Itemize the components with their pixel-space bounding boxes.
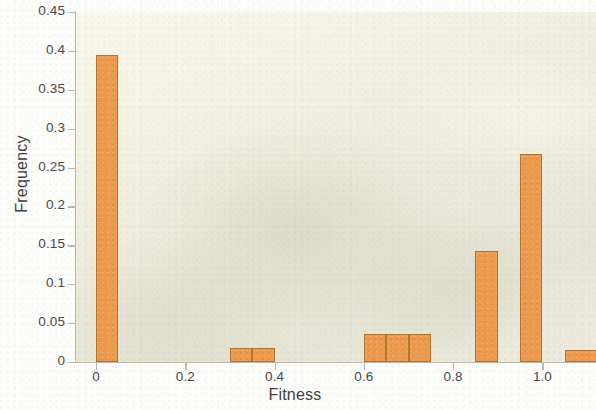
x-tick-label: 0 (73, 369, 119, 384)
plot-area (76, 12, 596, 362)
y-tick-label: 0.25 (25, 159, 65, 174)
y-tick-label: 0.4 (25, 42, 65, 57)
x-tick-label: 0.6 (341, 369, 387, 384)
y-tick-mark (68, 362, 75, 363)
y-tick-label: 0.3 (25, 120, 65, 135)
y-tick-label: 0.35 (25, 81, 65, 96)
y-tick-label: 0.05 (25, 314, 65, 329)
histogram-figure: 00.050.10.150.20.250.30.350.40.45 00.20.… (0, 0, 596, 410)
y-tick-mark (68, 206, 75, 207)
histogram-bar (364, 334, 386, 362)
histogram-bar (475, 251, 497, 362)
x-axis-line (75, 362, 596, 363)
histogram-bar (409, 334, 431, 362)
y-tick-label: 0.45 (25, 3, 65, 18)
y-tick-mark (68, 90, 75, 91)
y-tick-mark (68, 168, 75, 169)
y-axis-line (75, 11, 76, 363)
y-tick-mark (68, 51, 75, 52)
bar-series (76, 12, 596, 362)
x-tick-label: 0.8 (430, 369, 476, 384)
y-tick-label: 0.1 (25, 275, 65, 290)
y-tick-label: 0 (25, 353, 65, 368)
y-tick-mark (68, 12, 75, 13)
x-axis-title: Fitness (205, 386, 385, 404)
y-axis-title: Frequency (13, 104, 31, 244)
y-tick-mark (68, 129, 75, 130)
histogram-bar (230, 348, 252, 362)
y-tick-mark (68, 323, 75, 324)
histogram-bar (386, 334, 408, 362)
y-tick-label: 0.15 (25, 236, 65, 251)
y-tick-label: 0.2 (25, 197, 65, 212)
histogram-bar (96, 55, 118, 362)
histogram-bar (252, 348, 274, 362)
y-tick-mark (68, 284, 75, 285)
histogram-bar (520, 154, 542, 362)
histogram-bar (565, 350, 596, 362)
x-tick-label: 0.4 (252, 369, 298, 384)
x-tick-label: 0.2 (162, 369, 208, 384)
x-tick-label: 1.0 (519, 369, 565, 384)
y-tick-mark (68, 245, 75, 246)
